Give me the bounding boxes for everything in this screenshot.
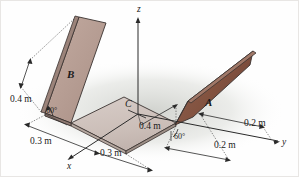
dim-label-base-y-near: 0.2 m [214, 141, 236, 151]
centroid-label: C [125, 99, 132, 109]
angle-label-plate-b: 60° [46, 107, 57, 115]
z-axis-label: z [137, 5, 141, 15]
plate-a-label: A [205, 97, 212, 108]
angle-label-plate-a: 60° [174, 133, 185, 141]
statics-figure: z y x B A C 0.4 m 0.4 m 0.3 m 0.3 m 0.2 … [0, 0, 299, 177]
dim-label-base-y-far: 0.2 m [244, 119, 266, 129]
x-axis-label: x [67, 162, 71, 172]
plate-b-label: B [67, 69, 74, 80]
y-axis-label: y [282, 138, 286, 148]
dim-plate-b-height [21, 60, 30, 87]
dim-label-base-x-right: 0.3 m [100, 149, 122, 159]
dim-label-plate-b-height: 0.4 m [10, 95, 32, 105]
figure-drawing [1, 1, 299, 177]
dim-label-center-half-width: 0.4 m [139, 122, 161, 132]
dim-label-base-x-left: 0.3 m [30, 137, 52, 147]
